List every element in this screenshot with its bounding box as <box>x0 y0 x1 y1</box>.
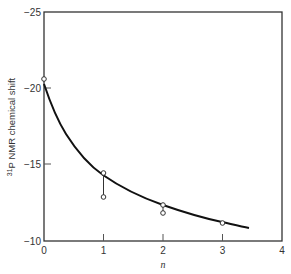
fitted-curve <box>44 84 249 228</box>
chart: −25 −20 −15 −10 0 1 2 3 4 n 31P NMR chem… <box>0 0 291 274</box>
x-tick-label: 1 <box>101 245 107 256</box>
data-point <box>161 203 166 208</box>
x-tick-label: 2 <box>160 245 166 256</box>
data-point <box>161 211 166 216</box>
x-ticks <box>104 234 223 241</box>
data-point <box>220 221 225 226</box>
x-tick-label: 0 <box>41 245 47 256</box>
x-tick-labels: 0 1 2 3 4 <box>41 245 285 256</box>
y-axis-title-text: P NMR chemical shift <box>6 77 17 168</box>
y-tick-label: −15 <box>24 159 41 170</box>
y-tick-labels: −25 −20 −15 −10 <box>24 7 41 247</box>
y-tick-label: −20 <box>24 83 41 94</box>
y-tick-label: −10 <box>24 236 41 247</box>
data-point <box>101 195 106 200</box>
x-tick-label: 3 <box>220 245 226 256</box>
y-axis-title-superscript: 31 <box>6 168 13 176</box>
x-tick-label: 4 <box>279 245 285 256</box>
data-point <box>101 171 106 176</box>
data-points <box>42 77 225 226</box>
y-axis-title: 31P NMR chemical shift <box>6 77 17 176</box>
y-tick-label: −25 <box>24 7 41 18</box>
data-point <box>42 77 47 82</box>
x-axis-title: n <box>161 259 166 270</box>
